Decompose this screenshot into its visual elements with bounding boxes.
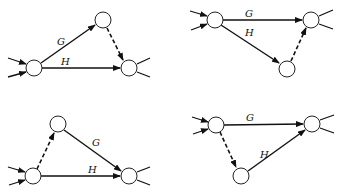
label-g: G xyxy=(245,8,253,19)
node xyxy=(304,116,320,132)
incoming-arrow xyxy=(191,24,207,30)
incoming-arrow xyxy=(190,11,207,16)
incoming-arrow xyxy=(8,72,26,77)
label-h: H xyxy=(259,149,269,160)
node xyxy=(121,60,137,76)
node xyxy=(279,61,295,77)
network-diagram: G H G H G H xyxy=(0,0,348,193)
panel-top-left: G H xyxy=(8,12,150,77)
outgoing-stub xyxy=(319,10,333,16)
node xyxy=(50,116,66,132)
outgoing-stub xyxy=(137,167,150,172)
outgoing-stub xyxy=(137,180,150,185)
dummy-edge xyxy=(291,28,306,61)
node xyxy=(303,12,319,28)
incoming-arrow xyxy=(192,117,208,122)
node xyxy=(25,168,41,184)
incoming-arrow xyxy=(193,129,208,134)
incoming-arrow xyxy=(8,58,26,64)
outgoing-stub xyxy=(137,72,150,77)
node xyxy=(208,117,224,133)
incoming-arrow xyxy=(9,180,25,185)
incoming-arrow xyxy=(8,167,25,172)
label-g: G xyxy=(57,36,65,47)
node xyxy=(95,12,111,28)
edge-h xyxy=(248,130,305,171)
label-h: H xyxy=(244,27,254,38)
label-h: H xyxy=(60,56,70,67)
node xyxy=(207,12,223,28)
label-h: H xyxy=(87,164,97,175)
outgoing-stub xyxy=(319,24,333,29)
panel-bottom-left: G H xyxy=(8,116,150,185)
node xyxy=(121,168,137,184)
dummy-edge xyxy=(37,133,54,169)
panel-bottom-right: G H xyxy=(192,112,334,184)
edge-g xyxy=(224,124,303,125)
outgoing-stub xyxy=(320,115,334,120)
dummy-edge xyxy=(220,132,236,167)
label-g: G xyxy=(92,137,100,148)
label-g: G xyxy=(246,112,254,123)
panel-top-right: G H xyxy=(190,8,333,77)
outgoing-stub xyxy=(320,128,334,133)
node xyxy=(26,60,42,76)
dummy-edge xyxy=(107,28,123,60)
outgoing-stub xyxy=(137,58,150,64)
node xyxy=(233,168,249,184)
